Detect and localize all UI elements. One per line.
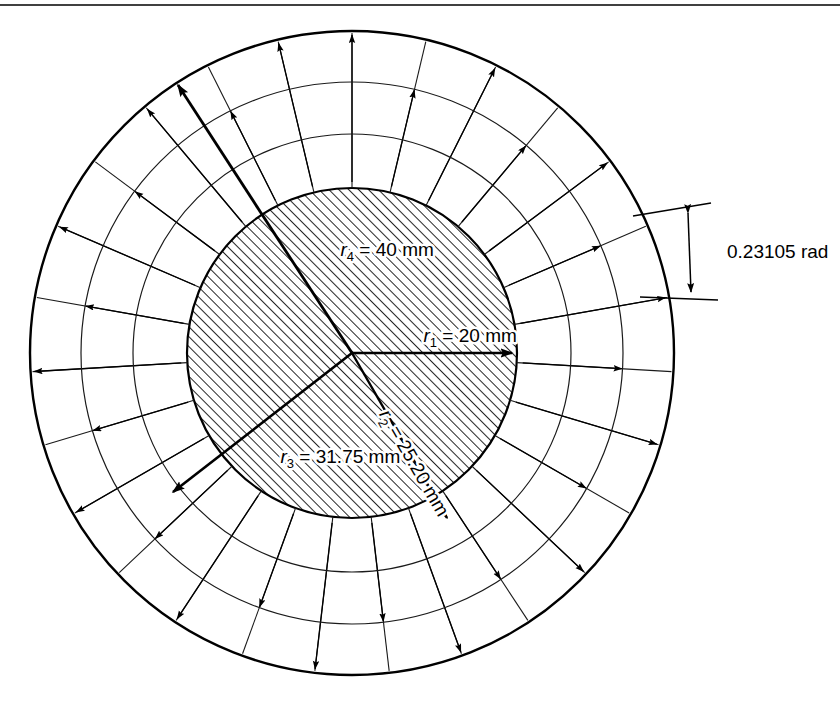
outward-flux-arrow (35, 363, 182, 372)
r4-label-text: = 40 mm (354, 239, 434, 260)
r1-label-subscript: 1 (430, 335, 437, 350)
outward-flux-arrow (279, 44, 313, 187)
outward-flux-arrow (60, 227, 195, 285)
outward-flux-arrow (156, 470, 228, 538)
outward-flux-arrow (429, 69, 495, 200)
outward-flux-arrow (93, 402, 188, 430)
outward-flux-arrow (516, 402, 657, 444)
outward-flux-arrow (372, 523, 384, 621)
angle-dimension-arrow (688, 213, 691, 292)
outward-flux-arrow (489, 163, 607, 251)
outward-flux-arrow (135, 192, 214, 251)
angle-dimension-annotation: 0.23105 rad (633, 203, 828, 300)
outward-flux-arrow (500, 439, 586, 489)
r1-label-text: = 20 mm (437, 325, 517, 346)
outward-flux-arrow (148, 109, 242, 222)
outward-flux-arrow (260, 514, 294, 607)
angle-label: 0.23105 rad (727, 241, 828, 262)
r3-label-text: = 31.75 mm (294, 446, 400, 467)
outward-flux-arrow (177, 496, 258, 619)
outward-flux-arrow (520, 298, 665, 324)
outward-flux-arrow (315, 523, 332, 669)
angle-extension-line-upper (633, 203, 711, 216)
r3-label-subscript: 3 (287, 456, 294, 471)
radial-mesh-diagram: 0.23105 rad r4 = 40 mm r1 = 20 mm r2 = 2… (0, 0, 840, 708)
outward-flux-arrow (231, 112, 275, 200)
outward-flux-arrow (462, 146, 526, 222)
outward-flux-arrow (509, 246, 600, 285)
figure-root: 0.23105 rad r4 = 40 mm r1 = 20 mm r2 = 2… (0, 0, 840, 708)
r4-label-subscript: 4 (347, 249, 354, 264)
outward-flux-arrow (77, 439, 204, 513)
outward-flux-arrow (523, 363, 622, 369)
